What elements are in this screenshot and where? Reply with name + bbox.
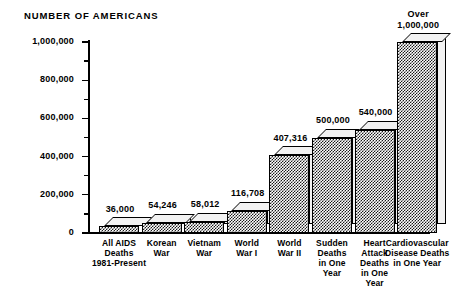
y-axis-tick-label: 200,000 <box>40 189 74 199</box>
bar-front-face <box>99 226 139 233</box>
chart-title: NUMBER OF AMERICANS <box>24 10 158 21</box>
bar-front-face <box>397 42 437 233</box>
bar-front-face <box>227 211 267 233</box>
bar-chart: NUMBER OF AMERICANS 0200,000400,000600,0… <box>0 0 454 299</box>
bar-front-face <box>142 223 182 233</box>
bar-front-face <box>312 138 352 234</box>
bar-value-label: Over1,000,000 <box>387 9 449 30</box>
y-axis-tick-label: 0 <box>69 227 74 237</box>
bar-side-face <box>437 33 446 224</box>
y-axis-major-tick <box>82 41 89 42</box>
y-axis-minor-tick <box>84 99 89 100</box>
bar-front-face <box>269 155 309 233</box>
y-axis-minor-tick <box>84 137 89 138</box>
y-axis-tick-label: 400,000 <box>40 151 74 161</box>
y-axis-tick-label: 600,000 <box>40 112 74 122</box>
y-axis-major-tick <box>82 156 89 157</box>
category-label: CardiovascularDisease Deathsin One Year <box>384 238 450 268</box>
y-axis-tick-label: 800,000 <box>40 74 74 84</box>
bar-front-face <box>355 130 395 233</box>
bar-front-face <box>184 222 224 233</box>
y-axis-major-tick <box>82 118 89 119</box>
y-axis-minor-tick <box>84 175 89 176</box>
y-axis-major-tick <box>82 80 89 81</box>
y-axis-minor-tick <box>84 60 89 61</box>
y-axis-tick-label: 1,000,000 <box>32 36 74 46</box>
y-axis-major-tick <box>82 232 89 233</box>
bar <box>397 33 446 233</box>
y-axis-major-tick <box>82 194 89 195</box>
bar-top-face <box>402 33 451 42</box>
